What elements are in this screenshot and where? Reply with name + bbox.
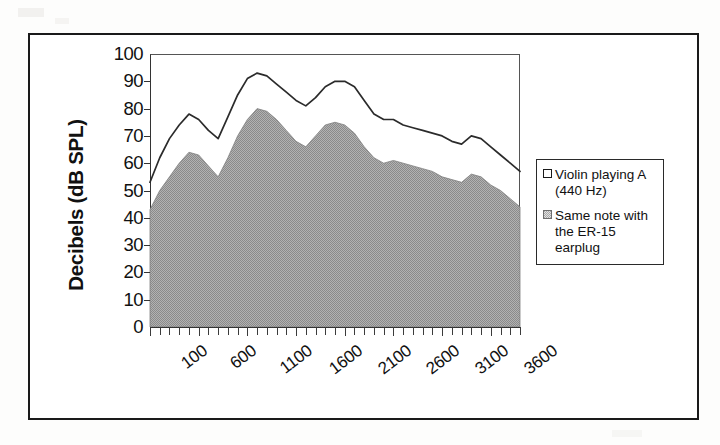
x-tick-mark [335,327,336,335]
y-tick-mark [144,218,150,219]
x-tick-label: 1100 [276,341,316,378]
x-tick-label: 2100 [374,341,415,379]
x-tick-mark [403,327,404,335]
x-tick-mark [491,327,492,336]
y-tick-mark [144,136,150,137]
x-tick-label: 100 [178,341,212,374]
y-tick-label: 10 [123,289,143,311]
x-tick-mark [413,327,414,335]
x-tick-mark [354,327,355,335]
x-tick-mark [169,327,170,335]
x-tick-mark [277,327,278,335]
x-tick-mark [179,327,180,335]
y-tick-label: 70 [123,125,143,147]
y-tick-label: 0 [133,316,143,338]
y-tick-label: 50 [123,180,143,202]
x-tick-mark [208,327,209,335]
x-tick-mark [374,327,375,335]
plot-area: 0102030405060708090100 10060011001600210… [150,54,520,327]
scan-speckle [18,8,44,17]
x-tick-mark [306,327,307,335]
x-tick-mark [432,327,433,335]
x-tick-label: 3600 [520,341,561,379]
y-tick-label: 80 [123,98,143,120]
scan-speckle [55,18,69,24]
x-tick-mark [199,327,200,336]
x-tick-label: 600 [226,341,260,374]
y-tick-mark [144,272,150,273]
y-tick-label: 90 [123,70,143,92]
x-tick-mark [238,327,239,335]
x-tick-mark [510,327,511,335]
x-tick-mark [471,327,472,335]
y-tick-mark [144,81,150,82]
x-tick-mark [267,327,268,335]
y-tick-mark [144,300,150,301]
y-tick-mark [144,191,150,192]
x-tick-mark [189,327,190,335]
scanned-page: Decibels (dB SPL) 0102030405060708090100… [0,0,720,445]
dotted-square-icon [543,210,552,219]
x-tick-label: 2600 [423,341,464,379]
x-tick-mark [247,327,248,336]
x-tick-mark [228,327,229,335]
x-tick-mark [345,327,346,336]
x-tick-mark [384,327,385,335]
x-tick-mark [316,327,317,335]
x-tick-mark [501,327,502,335]
chart-canvas [150,54,520,327]
y-tick-label: 40 [123,207,143,229]
chart-legend: Violin playing A (440 Hz) Same note with… [536,159,664,265]
x-tick-mark [481,327,482,335]
scan-speckle [612,430,642,437]
x-tick-mark [218,327,219,335]
x-tick-mark [296,327,297,336]
x-tick-mark [257,327,258,335]
outline-square-icon [543,169,552,178]
x-tick-mark [325,327,326,335]
x-tick-mark [364,327,365,335]
x-tick-mark [150,327,151,336]
x-tick-mark [393,327,394,336]
x-tick-mark [160,327,161,335]
figure-frame: Decibels (dB SPL) 0102030405060708090100… [28,33,699,420]
y-tick-mark [144,163,150,164]
legend-item-violin: Violin playing A (440 Hz) [543,167,657,199]
x-tick-label: 1600 [325,341,366,379]
x-tick-mark [423,327,424,335]
x-tick-mark [520,327,521,335]
y-tick-label: 30 [123,234,143,256]
y-tick-mark [144,245,150,246]
y-tick-label: 20 [123,261,143,283]
x-tick-mark [452,327,453,335]
y-tick-label: 60 [123,152,143,174]
legend-item-earplug: Same note with the ER-15 earplug [543,208,657,256]
legend-item-label: Violin playing A (440 Hz) [555,167,657,199]
y-tick-label: 100 [114,43,143,65]
x-tick-mark [286,327,287,335]
y-tick-mark [144,109,150,110]
x-tick-mark [442,327,443,336]
x-tick-mark [462,327,463,335]
x-tick-label: 3100 [471,341,512,379]
y-axis-title: Decibels (dB SPL) [64,95,88,315]
legend-item-label: Same note with the ER-15 earplug [555,208,657,256]
